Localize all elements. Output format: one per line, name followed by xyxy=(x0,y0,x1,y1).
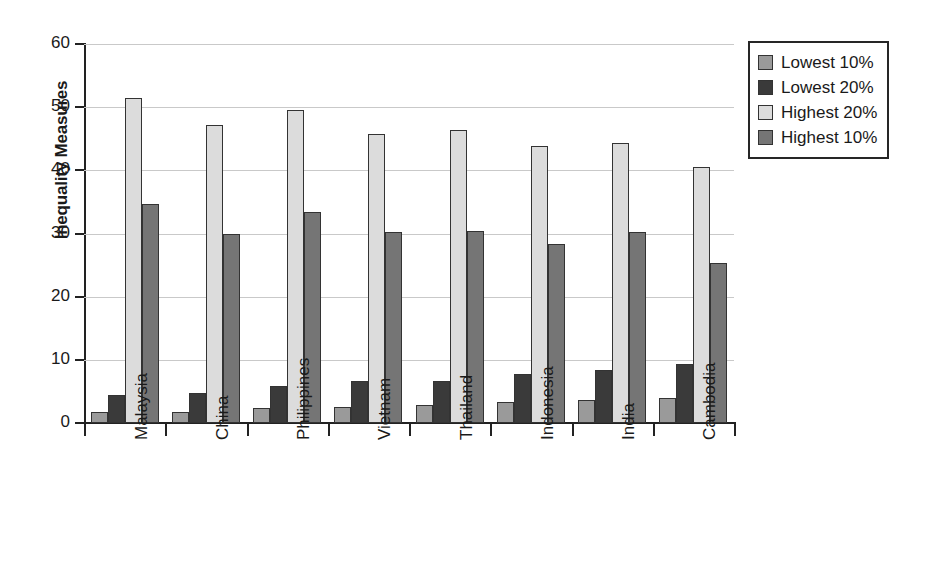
legend: Lowest 10%Lowest 20%Highest 20%Highest 1… xyxy=(748,41,889,159)
bar xyxy=(497,402,514,423)
x-axis-label: Malaysia xyxy=(132,290,152,440)
bar xyxy=(189,393,206,423)
x-axis-label: India xyxy=(619,290,639,440)
bar xyxy=(416,405,433,423)
y-axis-tick xyxy=(75,106,84,108)
bar-group xyxy=(653,44,734,423)
bar xyxy=(514,374,531,423)
bar-group xyxy=(572,44,653,423)
legend-swatch-icon xyxy=(758,80,773,95)
x-axis-label: Indonesia xyxy=(538,290,558,440)
bar-group xyxy=(409,44,490,423)
x-axis-tick xyxy=(572,424,574,436)
x-axis-label: Cambodia xyxy=(700,290,720,440)
x-axis-label: China xyxy=(213,290,233,440)
bar xyxy=(334,407,351,423)
x-axis-tick xyxy=(247,424,249,436)
y-axis-tick-label: 60 xyxy=(30,33,70,53)
bar xyxy=(659,398,676,423)
legend-item[interactable]: Lowest 10% xyxy=(758,50,877,75)
bar xyxy=(108,395,125,423)
x-axis-tick xyxy=(409,424,411,436)
bar xyxy=(595,370,612,423)
bar xyxy=(433,381,450,423)
y-axis-tick-label: 20 xyxy=(30,286,70,306)
bar-group xyxy=(247,44,328,423)
bar-group xyxy=(328,44,409,423)
y-axis-tick-label: 10 xyxy=(30,349,70,369)
legend-label: Highest 20% xyxy=(781,103,877,123)
legend-swatch-icon xyxy=(758,55,773,70)
y-axis-tick xyxy=(75,233,84,235)
bar-group xyxy=(490,44,571,423)
legend-label: Lowest 20% xyxy=(781,78,874,98)
bar xyxy=(172,412,189,423)
y-axis-tick xyxy=(75,43,84,45)
x-axis-tick xyxy=(84,424,86,436)
legend-swatch-icon xyxy=(758,105,773,120)
x-axis-label: Philippines xyxy=(294,290,314,440)
legend-item[interactable]: Lowest 20% xyxy=(758,75,877,100)
y-axis-tick-label: 40 xyxy=(30,159,70,179)
x-axis-label: Thailand xyxy=(457,290,477,440)
x-axis-tick xyxy=(328,424,330,436)
bar xyxy=(351,381,368,423)
bar-group xyxy=(84,44,165,423)
legend-label: Lowest 10% xyxy=(781,53,874,73)
legend-item[interactable]: Highest 20% xyxy=(758,100,877,125)
x-axis-tick xyxy=(734,424,736,436)
y-axis-tick xyxy=(75,422,84,424)
bar-group xyxy=(165,44,246,423)
bar xyxy=(676,364,693,423)
bar xyxy=(578,400,595,423)
x-axis-tick xyxy=(490,424,492,436)
bar xyxy=(91,412,108,423)
y-axis-tick xyxy=(75,359,84,361)
bar xyxy=(253,408,270,423)
legend-item[interactable]: Highest 10% xyxy=(758,125,877,150)
y-axis-tick-label: 50 xyxy=(30,96,70,116)
y-axis-tick-label: 30 xyxy=(30,223,70,243)
y-axis-tick xyxy=(75,169,84,171)
legend-label: Highest 10% xyxy=(781,128,877,148)
bar-chart: Inequality Measures 0102030405060 Malays… xyxy=(0,0,939,570)
x-axis-tick xyxy=(165,424,167,436)
y-axis-tick xyxy=(75,296,84,298)
legend-swatch-icon xyxy=(758,130,773,145)
x-axis-tick xyxy=(653,424,655,436)
bar xyxy=(270,386,287,423)
y-axis-tick-label: 0 xyxy=(30,412,70,432)
x-axis-label: Vietnam xyxy=(375,290,395,440)
